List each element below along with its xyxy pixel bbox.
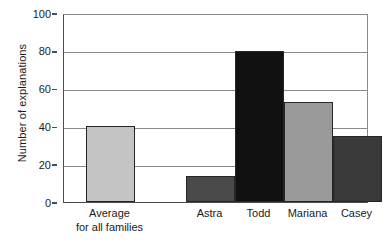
y-tick-40: 40 [39, 122, 51, 133]
y-tick-mark-0 [52, 202, 57, 204]
y-tick-mark-100 [52, 13, 57, 15]
y-tick-80: 80 [39, 46, 51, 57]
y-tick-mark-40 [52, 127, 57, 129]
y-tick-60: 60 [39, 84, 51, 95]
y-tick-20: 20 [39, 160, 51, 171]
x-axis-tick-labels: Averagefor all familiesAstraToddMarianaC… [63, 206, 368, 250]
y-tick-100: 100 [33, 9, 51, 20]
bar-mariana [284, 102, 333, 202]
bar-astra [186, 176, 235, 202]
x-label-line1: Casey [341, 207, 372, 219]
bar-todd [235, 51, 284, 202]
bar-casey [333, 136, 382, 202]
y-tick-mark-80 [52, 51, 57, 53]
y-tick-mark-60 [52, 89, 57, 91]
bar-series [64, 15, 367, 202]
x-label-line2: for all families [50, 220, 170, 234]
y-tick-mark-20 [52, 164, 57, 166]
x-label-casey: Casey [297, 206, 386, 220]
x-label-line1: Average [89, 207, 130, 219]
plot-area [63, 14, 368, 203]
y-axis-tick-labels: 100806040200 [0, 0, 57, 252]
bar-average [86, 126, 135, 202]
